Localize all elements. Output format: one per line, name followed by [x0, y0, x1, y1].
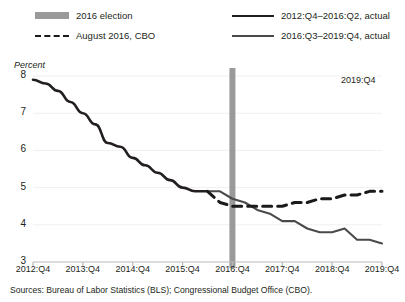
x-tick-label: 2017:Q4 [255, 264, 309, 274]
x-tick-label: 2015:Q4 [156, 264, 210, 274]
x-tick-label: 2012:Q4 [6, 264, 60, 274]
x-tick-label: 2016:Q4 [205, 264, 259, 274]
election-vline [229, 68, 235, 268]
series-line-1 [33, 80, 208, 192]
x-tick-label: 2013:Q4 [56, 264, 110, 274]
y-tick-label: 4 [12, 218, 26, 229]
y-tick-label: 8 [12, 69, 26, 80]
x-tick-label: 2018:Q4 [305, 264, 359, 274]
data-series [33, 80, 382, 244]
unemployment-rate-chart: 2016 election August 2016, CBO 2012:Q4–2… [0, 0, 405, 302]
x-tick-label: 2014:Q4 [106, 264, 160, 274]
y-tick-label: 5 [12, 181, 26, 192]
plot-area [0, 0, 405, 302]
source-note: Sources: Bureau of Labor Statistics (BLS… [10, 285, 312, 295]
gridlines [33, 76, 382, 225]
chart-svg [0, 0, 405, 302]
y-tick-label: 7 [12, 106, 26, 117]
x-tick-label: 2019:Q4 [355, 264, 405, 274]
y-tick-label: 6 [12, 143, 26, 154]
